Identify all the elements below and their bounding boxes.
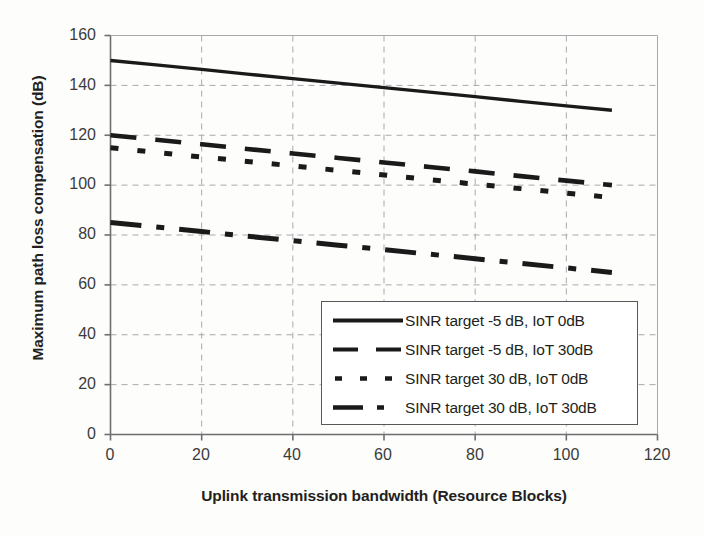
chart-figure: Maximum path loss compensation (dB) Upli… — [0, 0, 704, 536]
legend-entry-1: SINR target -5 dB, IoT 30dB — [322, 335, 637, 364]
legend-swatch-solid — [331, 306, 405, 335]
legend-swatch-dash-dot — [331, 393, 405, 422]
legend-entry-3: SINR target 30 dB, IoT 30dB — [322, 393, 637, 422]
legend-swatch-dotted — [331, 364, 405, 393]
series-line-2 — [111, 148, 612, 198]
legend-label-3: SINR target 30 dB, IoT 30dB — [405, 399, 597, 417]
legend-label-0: SINR target -5 dB, IoT 0dB — [405, 312, 585, 330]
series-line-0 — [111, 60, 612, 110]
data-series — [111, 60, 612, 272]
plot-area — [0, 0, 704, 536]
legend-entry-2: SINR target 30 dB, IoT 0dB — [322, 364, 637, 393]
series-line-1 — [111, 135, 612, 185]
legend-box: SINR target -5 dB, IoT 0dB SINR target -… — [321, 301, 638, 425]
series-line-3 — [111, 223, 612, 273]
legend-swatch-dashed — [331, 335, 405, 364]
legend-label-1: SINR target -5 dB, IoT 30dB — [405, 341, 593, 359]
legend-entry-0: SINR target -5 dB, IoT 0dB — [322, 306, 637, 335]
legend-label-2: SINR target 30 dB, IoT 0dB — [405, 370, 588, 388]
